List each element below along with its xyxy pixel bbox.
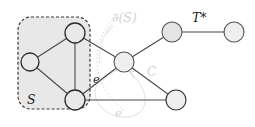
node-low-right	[166, 90, 186, 110]
node-s-left	[21, 53, 39, 71]
node-s-bottom	[65, 90, 85, 110]
set-S-label: S	[27, 92, 36, 107]
cycle-label: C	[147, 65, 156, 79]
graph-canvas: ∂(S) T* e e′ C S	[0, 0, 255, 127]
node-far-right	[224, 22, 244, 42]
node-mid	[114, 52, 134, 72]
edge-e-prime-label: e′	[115, 106, 125, 120]
tree-label: T*	[192, 10, 207, 25]
node-s-top	[65, 23, 85, 43]
boundary-label: ∂(S)	[112, 10, 137, 25]
node-up-right	[162, 22, 182, 42]
graph-figure: ∂(S) T* e e′ C S	[0, 0, 255, 127]
edge-e-label: e	[93, 72, 100, 86]
